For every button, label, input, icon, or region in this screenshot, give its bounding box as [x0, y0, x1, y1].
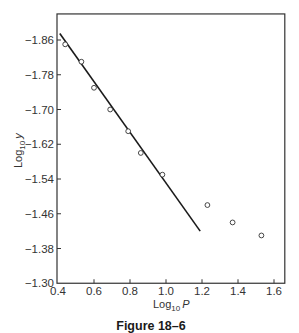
- plot-frame: [57, 14, 285, 283]
- x-tick-label: 0.6: [86, 285, 102, 297]
- x-tick-label: 0.8: [122, 285, 138, 297]
- data-point-circle: [79, 59, 84, 64]
- x-tick-label: 1.4: [230, 285, 247, 297]
- y-axis-label: Log10y: [12, 132, 27, 168]
- data-point-circle: [205, 203, 210, 208]
- data-point-circle: [230, 220, 235, 225]
- y-tick-label: −1.54: [25, 173, 55, 185]
- y-tick-label: −1.30: [25, 277, 54, 289]
- x-axis-label: Log10P: [153, 298, 190, 313]
- x-tick-label: 1.0: [158, 285, 174, 297]
- data-point-circle: [160, 172, 165, 177]
- y-tick-label: −1.62: [25, 138, 54, 150]
- data-point-circle: [138, 151, 143, 156]
- data-point-circle: [108, 107, 113, 112]
- y-tick-label: −1.46: [25, 208, 54, 220]
- data-point-circle: [92, 85, 97, 90]
- y-tick-label: −1.86: [25, 34, 54, 46]
- y-tick-label: −1.78: [25, 69, 54, 81]
- data-point-circle: [259, 233, 264, 238]
- x-axis-ticks: 0.40.60.81.01.21.41.6: [50, 279, 282, 297]
- data-point-circle: [126, 129, 131, 134]
- data-points: [63, 42, 264, 238]
- y-tick-label: −1.38: [25, 243, 54, 255]
- data-point-circle: [63, 42, 68, 47]
- x-tick-label: 1.2: [194, 285, 210, 297]
- y-axis-ticks: −1.86−1.78−1.70−1.62−1.54−1.46−1.38−1.30: [25, 34, 61, 289]
- x-tick-label: 1.6: [266, 285, 282, 297]
- figure-caption: Figure 18–6: [116, 319, 186, 333]
- y-tick-label: −1.70: [25, 104, 54, 116]
- chart: 0.40.60.81.01.21.41.6 −1.86−1.78−1.70−1.…: [0, 0, 299, 333]
